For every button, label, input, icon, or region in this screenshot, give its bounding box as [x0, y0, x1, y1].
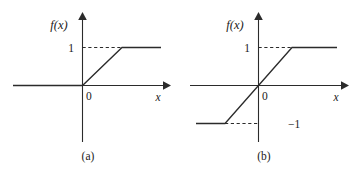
panel-b: f(x) x 1 −1 0 (b)	[190, 12, 349, 163]
panel-b-y-axis-label: f(x)	[226, 18, 243, 32]
panel-b-tick-label-neg1: −1	[288, 118, 300, 130]
panel-a-origin-label: 0	[86, 90, 92, 102]
panel-b-tick-label-1: 1	[244, 42, 250, 54]
panel-a-caption: (a)	[82, 150, 95, 163]
panel-a-x-axis-arrow	[163, 81, 171, 90]
panel-a-y-axis-arrow	[78, 12, 87, 20]
panel-a-curve	[13, 48, 161, 86]
panel-b-origin-label: 0	[262, 90, 268, 102]
figure-svg: f(x) x 1 0 (a) f(x) x 1 −1 0	[0, 0, 353, 171]
panel-a-x-axis-label: x	[154, 91, 161, 103]
panel-b-caption: (b)	[257, 150, 271, 163]
panel-b-x-axis-label: x	[332, 91, 339, 103]
panel-a: f(x) x 1 0 (a)	[13, 12, 171, 163]
panel-a-y-axis-label: f(x)	[50, 18, 67, 32]
figure-container: f(x) x 1 0 (a) f(x) x 1 −1 0	[0, 0, 353, 171]
panel-b-x-axis-arrow	[341, 81, 349, 90]
panel-a-tick-label-1: 1	[68, 42, 74, 54]
panel-b-y-axis-arrow	[254, 12, 263, 20]
